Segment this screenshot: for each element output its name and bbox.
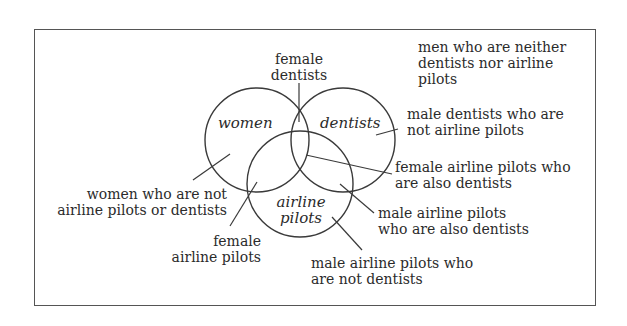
- label-female-pilots-dentists-line2: are also dentists: [395, 175, 571, 191]
- label-male-dentists-not-pilots: male dentists who are not airline pilots: [407, 106, 564, 138]
- label-female-dentists-line2: dentists: [265, 67, 333, 83]
- label-men-neither: men who are neither dentists nor airline…: [418, 39, 566, 87]
- women-circle: [205, 88, 309, 192]
- label-female-dentists: female dentists: [265, 51, 333, 83]
- label-male-pilots-not-line2: are not dentists: [311, 271, 473, 287]
- pointer-male-pilots-also-dentists: [340, 184, 374, 213]
- label-female-pilots-also-dentists: female airline pilots who are also denti…: [395, 159, 571, 191]
- set-label-airline-pilots: airline pilots: [272, 194, 330, 226]
- label-female-pilots-dentists-line1: female airline pilots who: [395, 159, 571, 175]
- label-male-dentists-line1: male dentists who are: [407, 106, 564, 122]
- pointer-female-airline-pilots: [230, 182, 257, 226]
- set-label-dentists: dentists: [320, 115, 380, 131]
- pointer-male-pilots-not-dentists: [332, 217, 362, 250]
- label-male-dentists-line2: not airline pilots: [407, 122, 564, 138]
- label-female-dentists-line1: female: [265, 51, 333, 67]
- label-male-pilots-also-dentists: male airline pilots who are also dentist…: [378, 205, 529, 237]
- label-male-pilots-not-dentists: male airline pilots who are not dentists: [311, 255, 473, 287]
- label-male-pilots-not-line1: male airline pilots who: [311, 255, 473, 271]
- label-male-pilots-dentists-line2: who are also dentists: [378, 221, 529, 237]
- set-label-airline-text: airline: [272, 194, 330, 210]
- label-men-neither-line1: men who are neither: [418, 39, 566, 55]
- set-label-women: women: [218, 115, 273, 131]
- label-female-airline-pilots: female airline pilots: [150, 233, 261, 265]
- pointer-women-not-pilots-dentists: [193, 154, 230, 180]
- label-female-airline-pilots-line1: female: [150, 233, 261, 249]
- dentists-circle: [291, 88, 395, 192]
- pointer-female-pilots-also-dentists: [306, 155, 392, 174]
- label-men-neither-line2: dentists nor airline: [418, 55, 566, 71]
- label-women-not-line1: women who are not: [45, 186, 227, 202]
- label-men-neither-line3: pilots: [418, 71, 566, 87]
- label-female-airline-pilots-line2: airline pilots: [150, 249, 261, 265]
- label-male-pilots-dentists-line1: male airline pilots: [378, 205, 529, 221]
- set-label-women-text: women: [218, 114, 273, 132]
- label-women-not-pilots-dentists: women who are not airline pilots or dent…: [45, 186, 227, 218]
- set-label-dentists-text: dentists: [320, 114, 380, 132]
- set-label-pilots-text: pilots: [272, 210, 330, 226]
- label-women-not-line2: airline pilots or dentists: [45, 202, 227, 218]
